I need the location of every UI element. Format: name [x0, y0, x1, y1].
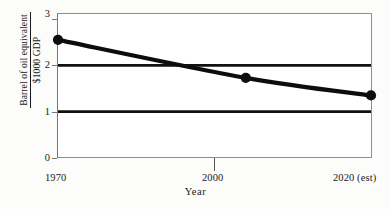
x-tick-label-2000: 2000	[202, 172, 223, 183]
series-line	[58, 40, 371, 96]
x-tick-mark-2000	[214, 158, 215, 171]
x-tick-label-1970: 1970	[45, 172, 66, 183]
series-line-group	[58, 40, 371, 96]
x-axis-title: Year	[0, 186, 391, 197]
chart-figure: 0 1 2 3 Barrel of oil equivalent $1000 G…	[0, 0, 391, 209]
data-point-2020	[366, 90, 376, 100]
data-point-1970	[53, 35, 63, 45]
data-point-2000	[241, 73, 251, 83]
x-tick-label-2020: 2020 (est)	[333, 172, 376, 183]
